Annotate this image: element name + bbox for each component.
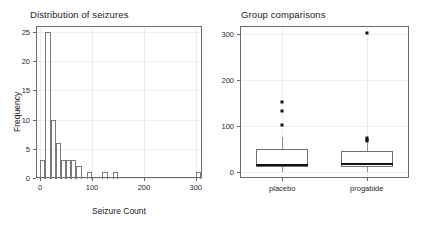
histogram-gridline-h — [37, 90, 201, 91]
boxplot-median-line — [256, 164, 308, 166]
boxplot-y-tick-label: 300 — [213, 30, 234, 39]
histogram-bar — [102, 172, 107, 179]
histogram-y-tick — [33, 120, 36, 121]
histogram-x-tick — [40, 178, 41, 181]
boxplot-panel: Group comparisons placeboprogabide010020… — [211, 0, 422, 226]
boxplot-gridline-h — [241, 34, 408, 35]
histogram-plot-area — [36, 26, 202, 178]
histogram-gridline-h — [37, 32, 201, 33]
histogram-gridline-v — [196, 27, 197, 177]
boxplot-x-tick-label: placebo — [269, 184, 295, 193]
boxplot-x-tick-label: progabide — [350, 184, 383, 193]
boxplot-gridline-h — [241, 80, 408, 81]
histogram-y-tick — [33, 32, 36, 33]
boxplot-y-tick-label: 100 — [213, 121, 234, 130]
histogram-x-tick — [144, 178, 145, 181]
histogram-y-tick — [33, 149, 36, 150]
boxplot-y-tick — [237, 126, 240, 127]
boxplot-y-tick — [237, 172, 240, 173]
histogram-y-axis-title: Frequency — [12, 92, 22, 132]
histogram-x-axis-title: Seizure Count — [92, 206, 146, 216]
histogram-panel: Distribution of seizures 051015202501002… — [0, 0, 211, 226]
histogram-x-tick-label: 200 — [138, 183, 151, 192]
histogram-gridline-v — [40, 27, 41, 177]
histogram-y-tick-label: 25 — [10, 27, 30, 36]
histogram-y-tick-label: 0 — [10, 174, 30, 183]
histogram-x-tick-label: 0 — [38, 183, 42, 192]
histogram-bar — [76, 166, 81, 179]
boxplot-x-tick — [282, 178, 283, 181]
histogram-gridline-v — [144, 27, 145, 177]
boxplot-y-tick-label: 200 — [213, 76, 234, 85]
figure-canvas: Distribution of seizures 051015202501002… — [0, 0, 422, 226]
boxplot-outlier-point — [281, 123, 284, 126]
histogram-y-tick — [33, 178, 36, 179]
histogram-x-tick-label: 300 — [190, 183, 203, 192]
histogram-title: Distribution of seizures — [30, 9, 129, 20]
boxplot-outlier-point — [365, 32, 368, 35]
histogram-y-tick — [33, 90, 36, 91]
histogram-x-tick-label: 100 — [86, 183, 99, 192]
boxplot-gridline-h — [241, 126, 408, 127]
boxplot-outlier-point — [281, 101, 284, 104]
histogram-bar — [113, 172, 118, 179]
boxplot-title: Group comparisons — [241, 9, 326, 20]
histogram-y-tick-label: 5 — [10, 144, 30, 153]
boxplot-y-tick — [237, 34, 240, 35]
histogram-gridline-h — [37, 149, 201, 150]
histogram-x-tick — [196, 178, 197, 181]
boxplot-y-tick — [237, 80, 240, 81]
histogram-y-tick — [33, 61, 36, 62]
histogram-gridline-v — [92, 27, 93, 177]
boxplot-x-tick — [367, 178, 368, 181]
boxplot-y-tick-label: 0 — [213, 167, 234, 176]
boxplot-outlier-point — [281, 109, 284, 112]
histogram-gridline-h — [37, 120, 201, 121]
histogram-x-tick — [92, 178, 93, 181]
histogram-gridline-h — [37, 61, 201, 62]
boxplot-median-line — [341, 163, 393, 165]
boxplot-outlier-point — [365, 137, 368, 140]
boxplot-gridline-h — [241, 172, 408, 173]
histogram-y-tick-label: 20 — [10, 57, 30, 66]
